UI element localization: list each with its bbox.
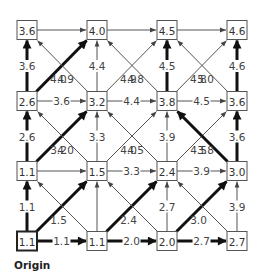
edges-layer xyxy=(27,30,237,241)
edge-label: 4.4 xyxy=(123,95,140,107)
edge-label: 3.3 xyxy=(123,165,140,177)
edge-label: 2.6 xyxy=(19,131,36,143)
edge-label: 4.5 xyxy=(127,144,144,156)
node-r2c0: 2.6 xyxy=(17,92,37,111)
node-r0c1: 1.1 xyxy=(87,232,107,251)
edge-label: 2.0 xyxy=(123,235,140,247)
edge-label: 3.9 xyxy=(159,131,176,143)
edge-label: 4.9 xyxy=(57,73,74,85)
edge-label: 3.9 xyxy=(229,201,246,213)
node-value: 3.0 xyxy=(229,166,246,178)
lattice-diagram: 1.12.02.73.33.93.64.44.51.12.63.63.34.42… xyxy=(0,0,262,279)
origin-node: 1.1 xyxy=(17,232,37,251)
node-r3c2: 4.5 xyxy=(157,21,177,40)
node-r1c0: 1.1 xyxy=(17,162,37,181)
node-value: 3.2 xyxy=(89,96,106,108)
node-value: 2.7 xyxy=(229,236,246,248)
edge-label: 1.1 xyxy=(53,235,70,247)
edge-label: 1.1 xyxy=(19,201,36,213)
node-r2c2: 3.8 xyxy=(157,92,177,111)
node-value: 4.0 xyxy=(89,25,106,37)
node-value: 1.1 xyxy=(19,166,36,178)
edge-label: 4.6 xyxy=(229,60,246,72)
node-value: 2.4 xyxy=(159,166,176,178)
edge-label: 1.5 xyxy=(50,214,67,226)
node-r3c3: 4.6 xyxy=(227,21,247,40)
node-r3c1: 4.0 xyxy=(87,21,107,40)
edge-label: 3.3 xyxy=(89,131,106,143)
node-r1c2: 2.4 xyxy=(157,162,177,181)
node-value: 4.5 xyxy=(159,25,176,37)
edge-label: 3.9 xyxy=(193,165,210,177)
node-value: 1.1 xyxy=(89,236,106,248)
node-value: 2.6 xyxy=(19,96,36,108)
node-value: 3.8 xyxy=(159,96,176,108)
edge-label: 4.0 xyxy=(57,144,74,156)
edge-label: 4.5 xyxy=(193,95,210,107)
node-r2c1: 3.2 xyxy=(87,92,107,111)
edge-label: 4.8 xyxy=(127,73,144,85)
edge-label: 4.5 xyxy=(159,60,176,72)
edge-labels-layer: 1.12.02.73.33.93.64.44.51.12.63.63.34.42… xyxy=(18,60,246,247)
edge-label: 2.7 xyxy=(159,201,176,213)
node-r1c1: 1.5 xyxy=(87,162,107,181)
node-value: 1.5 xyxy=(89,166,106,178)
node-r0c2: 2.0 xyxy=(157,232,177,251)
node-r1c3: 3.0 xyxy=(227,162,247,181)
edge-label: 3.6 xyxy=(53,95,70,107)
node-value: 4.6 xyxy=(229,25,246,37)
node-r2c3: 3.6 xyxy=(227,92,247,111)
origin-label: Origin xyxy=(14,259,50,271)
node-value: 1.1 xyxy=(19,236,36,248)
edge-label: 2.4 xyxy=(120,214,137,226)
node-r3c0: 3.6 xyxy=(17,21,37,40)
edge-label: 3.6 xyxy=(19,60,36,72)
node-r0c3: 2.7 xyxy=(227,232,247,251)
edge-label: 3.8 xyxy=(197,144,214,156)
node-value: 3.6 xyxy=(19,25,36,37)
node-value: 3.6 xyxy=(229,96,246,108)
edge-label: 3.0 xyxy=(190,214,207,226)
edge-label: 2.7 xyxy=(193,235,210,247)
edge-label: 5.0 xyxy=(197,73,214,85)
edge-label: 3.6 xyxy=(229,131,246,143)
edge-label: 4.4 xyxy=(89,60,106,72)
node-value: 2.0 xyxy=(159,236,176,248)
